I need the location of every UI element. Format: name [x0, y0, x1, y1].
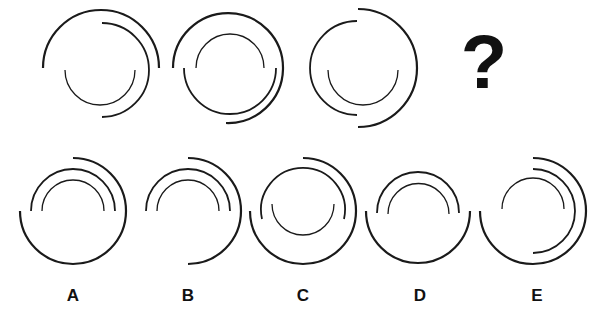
- middle-arc: [31, 169, 115, 211]
- puzzle-canvas: [0, 0, 598, 319]
- middle-arc: [146, 169, 230, 211]
- option-c-label[interactable]: C: [288, 287, 318, 305]
- middle-arc: [533, 169, 575, 253]
- outer-arc: [173, 13, 283, 123]
- option-a-figure[interactable]: [20, 158, 126, 264]
- option-b-figure[interactable]: [146, 158, 241, 264]
- sequence-figure-1: [43, 10, 159, 117]
- outer-arc: [358, 9, 417, 127]
- option-e-figure[interactable]: [480, 158, 586, 264]
- option-b-label[interactable]: B: [173, 287, 203, 305]
- option-e-label[interactable]: E: [522, 287, 552, 305]
- inner-arc: [196, 34, 264, 68]
- inner-arc: [502, 178, 564, 209]
- option-a-label[interactable]: A: [58, 287, 88, 305]
- inner-arc: [65, 70, 135, 105]
- middle-arc: [102, 23, 149, 117]
- outer-arc: [43, 10, 159, 68]
- inner-arc: [272, 204, 334, 235]
- option-d-label[interactable]: D: [405, 287, 435, 305]
- inner-arc: [328, 70, 398, 105]
- outer-arc: [188, 158, 241, 264]
- outer-arc: [366, 211, 470, 263]
- inner-arc: [388, 183, 449, 214]
- inner-arc: [157, 180, 219, 211]
- middle-arc: [184, 68, 276, 114]
- inner-arc: [42, 180, 104, 211]
- question-mark: ?: [460, 22, 508, 102]
- middle-arc: [310, 21, 357, 115]
- option-c-figure[interactable]: [250, 158, 356, 264]
- sequence-figure-2: [173, 13, 283, 123]
- outer-arc: [250, 158, 356, 264]
- middle-arc: [261, 168, 345, 219]
- sequence-figure-3: [310, 9, 417, 127]
- outer-arc: [480, 158, 586, 264]
- outer-arc: [20, 158, 126, 264]
- option-d-figure[interactable]: [366, 172, 470, 263]
